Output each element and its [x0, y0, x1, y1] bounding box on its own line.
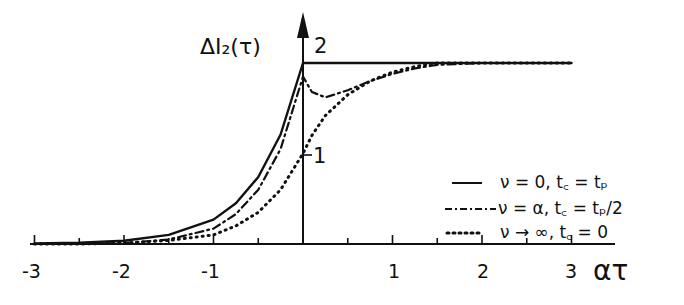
plot-area — [0, 0, 684, 305]
x-tick-label: -3 — [22, 262, 41, 281]
legend-entry-solid: ν = 0, t꜀ = tₚ — [500, 174, 608, 191]
y-axis-label: ΔI₂(τ) — [200, 36, 261, 58]
x-tick-label: 2 — [477, 262, 489, 281]
y-axis-arrow-icon — [297, 12, 309, 38]
x-tick-label: -1 — [201, 262, 220, 281]
x-tick-label: 1 — [388, 262, 400, 281]
x-tick-label: 3 — [565, 262, 577, 281]
legend-entry-dashdot: ν = α, t꜀ = tₚ/2 — [498, 200, 623, 217]
y-tick-label-2: 2 — [314, 36, 327, 57]
x-axis-label: ατ — [593, 257, 628, 285]
x-tick-label: -2 — [112, 262, 131, 281]
legend-entry-dotted: ν → ∞, t꜀ = 0 — [500, 224, 608, 241]
y-tick-label-1: 1 — [313, 146, 326, 167]
